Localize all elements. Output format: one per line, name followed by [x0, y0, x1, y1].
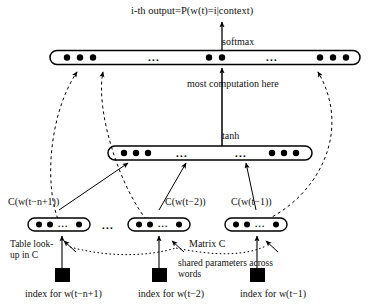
tanh-layer	[108, 146, 312, 160]
shared-parameter-link	[70, 246, 266, 255]
index-label-0: index for w(t−n+1)	[25, 288, 102, 299]
table-lookup-label: Table look-up in C	[10, 239, 58, 260]
tanh-ellipsis-left: ...	[176, 147, 188, 159]
most-computation-label: most computation here	[187, 78, 279, 89]
embedding-label-1: C(w(t−2))	[165, 196, 206, 207]
index-square-1	[152, 268, 167, 282]
tanh-label: tanh	[222, 130, 239, 141]
shared-parameter-arrowheads	[64, 241, 278, 252]
tanh-ellipsis-right: ...	[235, 147, 247, 159]
between-embeddings-ellipsis: ...	[102, 219, 114, 231]
embedding-label-2: C(w(t−1))	[231, 196, 272, 207]
embedding-1-ellipsis: ...	[158, 219, 168, 229]
shared-parameters-label: shared parameters across words	[178, 258, 274, 279]
softmax-label: softmax	[222, 36, 254, 47]
softmax-ellipsis-right: ...	[266, 51, 278, 63]
embedding-label-0: C(w(t−n+1))	[8, 196, 59, 207]
index-label-1: index for w(t−2)	[138, 288, 204, 299]
embedding-2-ellipsis: ...	[255, 219, 265, 229]
embedding-0-ellipsis: ...	[58, 219, 68, 229]
matrix-c-label: Matrix C	[189, 238, 225, 249]
embedding-to-hidden-connections	[59, 163, 256, 210]
index-label-2: index for w(t−1)	[240, 288, 306, 299]
index-square-0	[55, 268, 70, 282]
figure-canvas: i-th output=P(w(t)=i|context) softmax mo…	[0, 0, 370, 308]
softmax-ellipsis-left: ...	[148, 51, 160, 63]
softmax-layer	[50, 51, 360, 65]
figure-title: i-th output=P(w(t)=i|context)	[131, 5, 253, 17]
